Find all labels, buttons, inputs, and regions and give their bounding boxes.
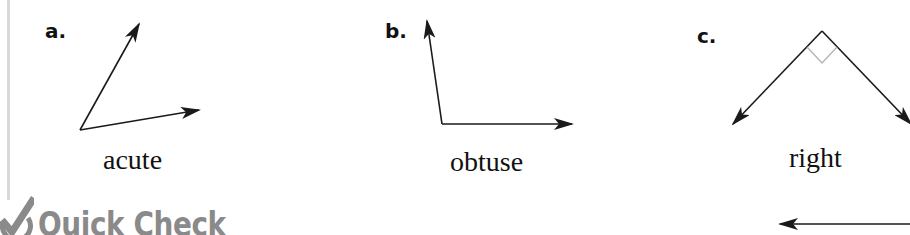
obtuse-angle-figure <box>427 21 572 124</box>
right-angle-figure <box>733 31 910 124</box>
figure-label-a: a. <box>45 21 66 41</box>
angle-name-acute: acute <box>103 146 162 174</box>
textbook-page: a. b. c. acute obtuse right Quick Check <box>0 0 910 235</box>
quick-check-header: Quick Check <box>0 192 267 235</box>
angle-name-obtuse: obtuse <box>450 148 523 176</box>
angle-name-right: right <box>789 144 842 172</box>
right-angle-marker <box>807 47 837 63</box>
acute-angle-figure <box>80 24 199 130</box>
section-title: Quick Check <box>38 207 226 235</box>
checkmark-circle-icon <box>0 192 34 235</box>
figure-label-c: c. <box>697 26 716 46</box>
figure-label-b: b. <box>385 21 407 41</box>
